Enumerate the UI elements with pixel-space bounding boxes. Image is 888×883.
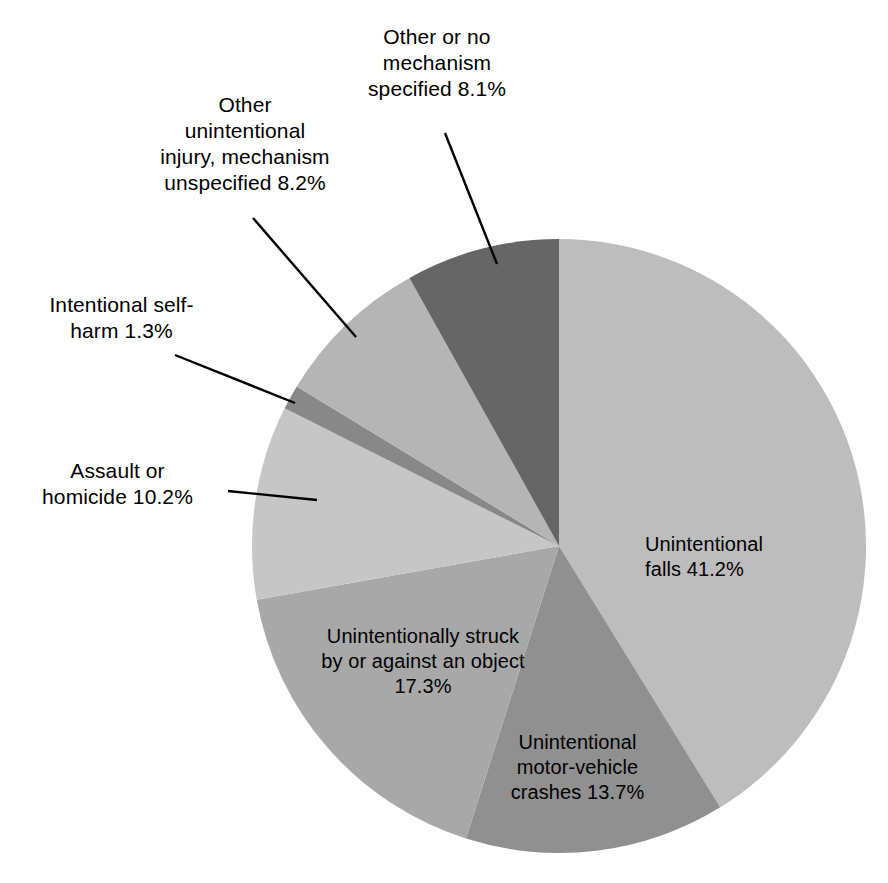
leader-line-intentional-self-harm: [175, 355, 295, 403]
slice-label-unintentional-falls: Unintentional falls 41.2%: [645, 532, 825, 582]
pie-chart-figure: Other or no mechanism specified 8.1% Oth…: [0, 0, 888, 883]
slice-label-other-unintentional-injury: Other unintentional injury, mechanism un…: [120, 92, 370, 196]
leader-line-other-or-no-mechanism-specified: [445, 133, 497, 264]
leader-line-other-unintentional-injury: [253, 218, 356, 337]
slice-label-intentional-self-harm: Intentional self- harm 1.3%: [14, 292, 229, 344]
slice-label-unintentional-motor-vehicle-crashes: Unintentional motor-vehicle crashes 13.7…: [480, 730, 675, 805]
slice-label-unintentionally-struck: Unintentionally struck by or against an …: [288, 624, 558, 699]
slice-label-other-or-no-mechanism-specified: Other or no mechanism specified 8.1%: [327, 24, 547, 102]
slice-label-assault-or-homicide: Assault or homicide 10.2%: [10, 458, 225, 510]
